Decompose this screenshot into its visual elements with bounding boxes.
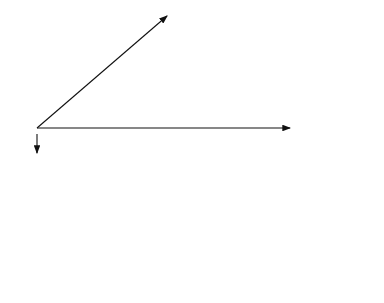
y-axis-arrow [37,16,167,128]
grid-diagram [0,0,384,303]
